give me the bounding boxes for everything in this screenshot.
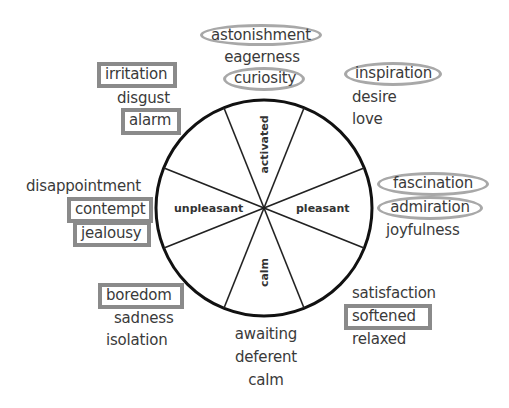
emotion-isolation: isolation [106,331,167,349]
emotion-fascination: fascination [377,172,489,196]
emotion-awaiting: awaiting [222,325,310,343]
emotion-softened: softened [344,304,432,330]
emotion-disappointment: disappointment [26,177,141,195]
emotion-admiration: admiration [377,196,483,220]
emotion-astonishment: astonishment [200,24,322,46]
emotion-love: love [352,110,383,128]
emotion-jealousy: jealousy [73,221,151,247]
emotion-eagerness: eagerness [222,48,302,66]
emotion-desire: desire [352,88,397,106]
emotion-boredom: boredom [98,283,184,309]
emotion-sadness: sadness [114,309,174,327]
emotion-deferent: deferent [222,348,310,366]
emotion-inspiration: inspiration [344,62,442,86]
axis-label-pleasant: pleasant [296,202,350,215]
emotion-irritation: irritation [97,62,177,88]
emotion-satisfaction: satisfaction [352,284,436,302]
axis-label-calm: calm [258,257,271,289]
axis-label-unpleasant: unpleasant [174,202,243,215]
emotion-calm: calm [222,371,310,389]
emotion-contempt: contempt [67,197,153,223]
emotion-disgust: disgust [117,89,170,107]
axis-label-activated: activated [258,113,271,177]
emotion-alarm: alarm [121,108,181,135]
emotion-relaxed: relaxed [352,330,406,348]
emotion-joyfulness: joyfulness [386,221,460,239]
emotion-curiosity: curiosity [223,67,305,91]
